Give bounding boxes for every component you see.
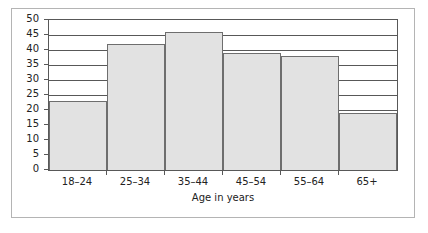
x-axis-title: Age in years xyxy=(48,192,398,203)
bar xyxy=(223,53,281,170)
x-axis: 18–2425–3435–4445–5455–6465+ xyxy=(48,171,398,193)
y-axis-tick-label: 10 xyxy=(9,134,39,144)
x-axis-tick-mark xyxy=(164,171,165,175)
chart-figure: 05101520253035404550 18–2425–3435–4445–5… xyxy=(11,8,415,218)
bar xyxy=(107,44,165,170)
y-axis-tick-label: 25 xyxy=(9,89,39,99)
y-axis: 05101520253035404550 xyxy=(12,19,48,171)
x-axis-tick-mark xyxy=(280,171,281,175)
gridline xyxy=(49,50,397,51)
x-axis-tick-mark xyxy=(338,171,339,175)
x-axis-tick-label: 65+ xyxy=(356,177,377,187)
y-axis-tick-label: 50 xyxy=(9,14,39,24)
y-axis-tick-label: 15 xyxy=(9,119,39,129)
x-axis-tick-mark xyxy=(222,171,223,175)
gridline xyxy=(49,35,397,36)
x-axis-tick-label: 35–44 xyxy=(178,177,208,187)
x-axis-tick-label: 45–54 xyxy=(236,177,266,187)
y-axis-tick-label: 0 xyxy=(9,164,39,174)
y-axis-tick-label: 45 xyxy=(9,29,39,39)
x-axis-tick-label: 18–24 xyxy=(62,177,92,187)
y-axis-tick-label: 20 xyxy=(9,104,39,114)
y-axis-tick-label: 30 xyxy=(9,74,39,84)
x-axis-tick-label: 55–64 xyxy=(294,177,324,187)
x-axis-tick-label: 25–34 xyxy=(120,177,150,187)
bar xyxy=(49,101,107,170)
plot-area xyxy=(48,19,398,171)
y-axis-tick-label: 35 xyxy=(9,59,39,69)
bar xyxy=(339,113,397,170)
y-axis-tick-label: 40 xyxy=(9,44,39,54)
bar xyxy=(281,56,339,170)
x-axis-tick-mark xyxy=(106,171,107,175)
bar xyxy=(165,32,223,170)
y-axis-tick-label: 5 xyxy=(9,149,39,159)
